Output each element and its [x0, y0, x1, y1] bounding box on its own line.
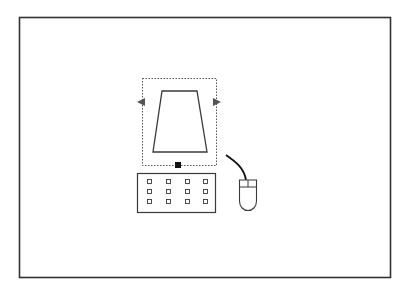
- rotate-handle-icon[interactable]: [175, 162, 181, 168]
- keyboard[interactable]: [138, 174, 216, 213]
- diagram-canvas: [0, 0, 410, 296]
- monitor-trapezoid[interactable]: [153, 91, 207, 152]
